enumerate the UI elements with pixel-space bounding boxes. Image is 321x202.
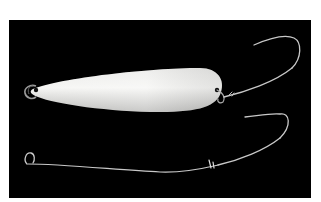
front-hole bbox=[34, 88, 38, 92]
lure-photo bbox=[0, 0, 321, 202]
